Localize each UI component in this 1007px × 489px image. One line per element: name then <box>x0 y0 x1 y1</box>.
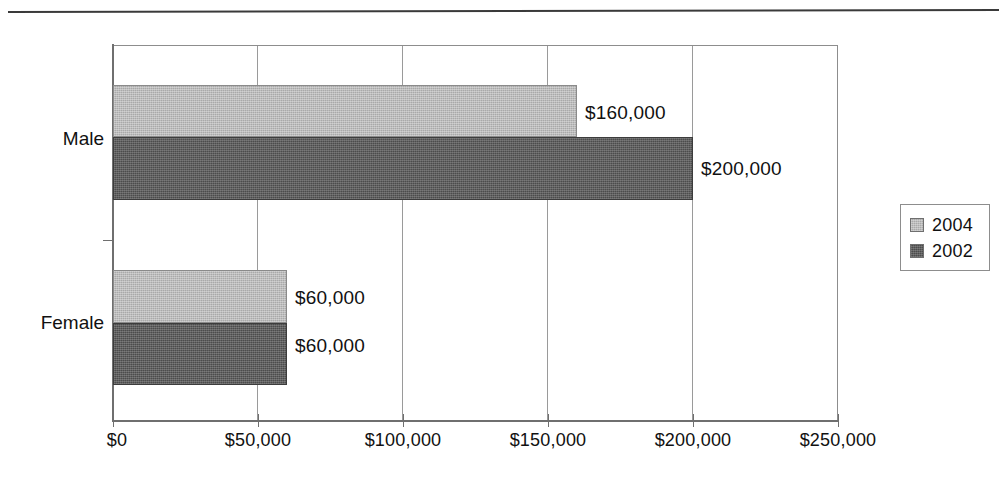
x-tick-250000 <box>838 414 839 427</box>
legend-item-2002: 2002 <box>910 238 989 264</box>
x-tick-100000 <box>403 414 404 427</box>
legend-item-2004: 2004 <box>910 212 989 238</box>
x-tick-0 <box>113 414 114 427</box>
legend-label-2004: 2004 <box>932 216 973 234</box>
bar-label-male-2004: $160,000 <box>585 102 666 124</box>
x-tick-label-150000: $150,000 <box>510 430 587 451</box>
bar-female-2002 <box>113 323 287 385</box>
x-tick-label-0: $0 <box>107 430 127 451</box>
bar-label-female-2002: $60,000 <box>295 335 365 357</box>
x-tick-label-50000: $50,000 <box>225 430 291 451</box>
x-tick-50000 <box>258 414 259 427</box>
legend-swatch-2004 <box>910 218 924 232</box>
bar-chart: $160,000 $200,000 Male $60,000 $60,000 F… <box>0 0 1007 489</box>
gridline-200000 <box>692 46 693 421</box>
x-axis-line <box>112 420 839 422</box>
category-label-male: Male <box>18 128 104 150</box>
y-category-tick <box>103 240 113 241</box>
x-tick-150000 <box>548 414 549 427</box>
legend-swatch-2002 <box>910 244 924 258</box>
bar-label-female-2004: $60,000 <box>295 287 365 309</box>
bar-male-2002 <box>113 137 693 200</box>
category-label-female: Female <box>10 312 104 334</box>
legend-label-2002: 2002 <box>932 242 973 260</box>
x-tick-label-200000: $200,000 <box>655 430 732 451</box>
bar-female-2004 <box>113 270 287 323</box>
x-tick-label-250000: $250,000 <box>800 430 877 451</box>
bar-male-2004 <box>113 85 577 137</box>
chart-legend: 2004 2002 <box>900 204 990 271</box>
bar-label-male-2002: $200,000 <box>701 158 782 180</box>
x-tick-200000 <box>693 414 694 427</box>
x-tick-label-100000: $100,000 <box>365 430 442 451</box>
